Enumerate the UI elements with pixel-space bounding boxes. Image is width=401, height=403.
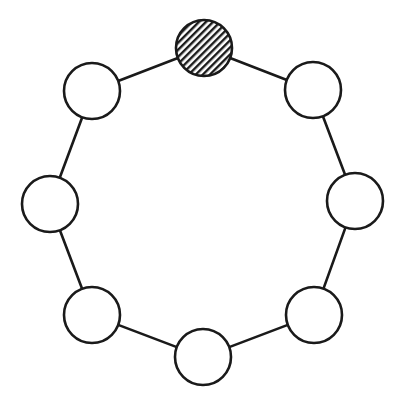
ring-diagram xyxy=(0,0,401,403)
node-upper-right xyxy=(285,62,341,118)
edge-upper-left-top xyxy=(118,58,178,81)
node-left xyxy=(22,176,78,232)
edge-left-upper-left xyxy=(60,117,82,178)
edge-right-lower-right xyxy=(323,227,345,288)
edge-upper-right-right xyxy=(323,116,345,175)
node-lower-right xyxy=(286,287,342,343)
nodes-group xyxy=(22,20,383,385)
node-bottom xyxy=(175,329,231,385)
node-lower-left xyxy=(64,287,120,343)
node-upper-left xyxy=(64,63,120,119)
node-top-hatched xyxy=(176,20,232,76)
edge-top-upper-right xyxy=(230,58,287,80)
edge-lower-right-bottom xyxy=(229,325,288,347)
node-right xyxy=(327,173,383,229)
edge-lower-left-left xyxy=(60,230,82,289)
edge-bottom-lower-left xyxy=(118,325,177,347)
